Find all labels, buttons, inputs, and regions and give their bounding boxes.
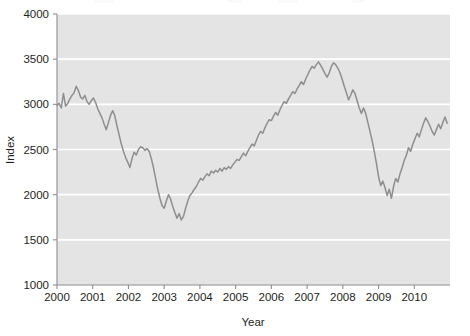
cropped-caption-artifact: [228, 0, 242, 3]
y-tick-label: 2500: [23, 144, 49, 156]
cropped-caption-artifact: [95, 0, 113, 3]
y-tick-label: 1000: [23, 279, 49, 291]
y-tick-label: 2000: [23, 189, 49, 201]
cropped-caption-artifact: [278, 0, 298, 3]
x-axis-title: Year: [241, 316, 264, 328]
y-tick-label: 3500: [23, 53, 49, 65]
x-tick-label: 2002: [116, 291, 142, 303]
chart-figure: 1000150020002500300035004000 Index 20002…: [0, 0, 470, 336]
y-axis-title: Index: [4, 136, 16, 164]
y-tick-label: 4000: [23, 8, 49, 20]
x-tick-label: 2001: [80, 291, 106, 303]
x-tick-label: 2009: [366, 291, 392, 303]
x-tick-label: 2010: [401, 291, 427, 303]
index-line-chart: 1000150020002500300035004000 Index 20002…: [0, 0, 470, 336]
x-tick-label: 2007: [294, 291, 320, 303]
x-tick-label: 2000: [44, 291, 70, 303]
plot-panel: [57, 14, 450, 285]
y-tick-label: 1500: [23, 234, 49, 246]
y-tick-label: 3000: [23, 98, 49, 110]
x-tick-label: 2005: [223, 291, 249, 303]
x-tick-label: 2003: [151, 291, 177, 303]
x-tick-label: 2008: [330, 291, 356, 303]
x-tick-label: 2004: [187, 291, 213, 303]
x-tick-label: 2006: [259, 291, 285, 303]
cropped-caption-artifact: [352, 0, 364, 3]
